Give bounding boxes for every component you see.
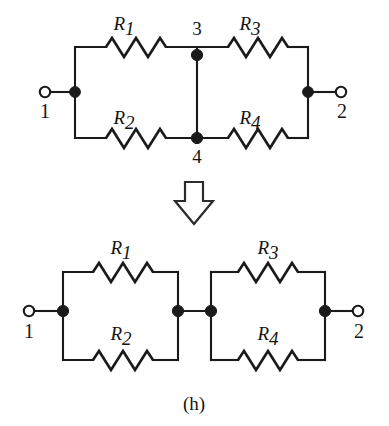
figure-caption: (h) <box>183 393 205 415</box>
bottom-terminal-2-label: 2 <box>354 320 364 342</box>
open-terminal-1 <box>40 87 50 97</box>
junction-dot-node-3 <box>191 49 202 60</box>
bottom-junction-dot-right <box>319 305 330 316</box>
bottom-resistor-r3-label: R3 <box>256 237 278 263</box>
bottom-resistor-r1-zigzag <box>93 263 153 282</box>
resistor-r3-label: R3 <box>238 13 260 39</box>
resistor-r1-label: R1 <box>112 13 134 39</box>
terminal-2-label: 2 <box>337 100 347 122</box>
bottom-junction-dot-mid-right <box>205 305 216 316</box>
junction-dot-right <box>303 87 314 98</box>
transform-arrow <box>175 182 213 224</box>
bottom-circuit: R1 R2 R3 R4 1 2 <box>24 237 364 370</box>
resistor-r4-label: R4 <box>238 107 261 133</box>
bottom-terminal-1-label: 1 <box>24 320 34 342</box>
bottom-resistor-r4-zigzag <box>238 351 298 370</box>
node-4-label: 4 <box>192 146 202 167</box>
terminal-1-label: 1 <box>40 100 50 122</box>
junction-dot-left <box>70 87 81 98</box>
bottom-open-terminal-2 <box>353 306 363 316</box>
node-3-label: 3 <box>192 18 202 39</box>
circuit-figure: R1 R2 R3 R4 3 4 1 2 <box>0 0 389 426</box>
bottom-junction-dot-mid-left <box>172 305 183 316</box>
resistor-r2-zigzag <box>106 129 166 148</box>
resistor-r3-zigzag <box>228 38 288 57</box>
bottom-resistor-r2-zigzag <box>93 351 153 370</box>
bottom-resistor-r1-label: R1 <box>109 237 131 263</box>
resistor-r2-label: R2 <box>112 107 135 133</box>
top-circuit: R1 R2 R3 R4 3 4 1 2 <box>40 13 347 167</box>
down-arrow-icon <box>175 182 213 224</box>
bottom-junction-dot-left <box>57 305 68 316</box>
open-terminal-2 <box>336 87 346 97</box>
bottom-resistor-r4-label: R4 <box>256 323 279 349</box>
bottom-resistor-r2-label: R2 <box>109 323 132 349</box>
bottom-resistor-r3-zigzag <box>238 263 298 282</box>
resistor-r1-zigzag <box>106 38 166 57</box>
junction-dot-node-4 <box>191 132 202 143</box>
bottom-open-terminal-1 <box>24 306 34 316</box>
